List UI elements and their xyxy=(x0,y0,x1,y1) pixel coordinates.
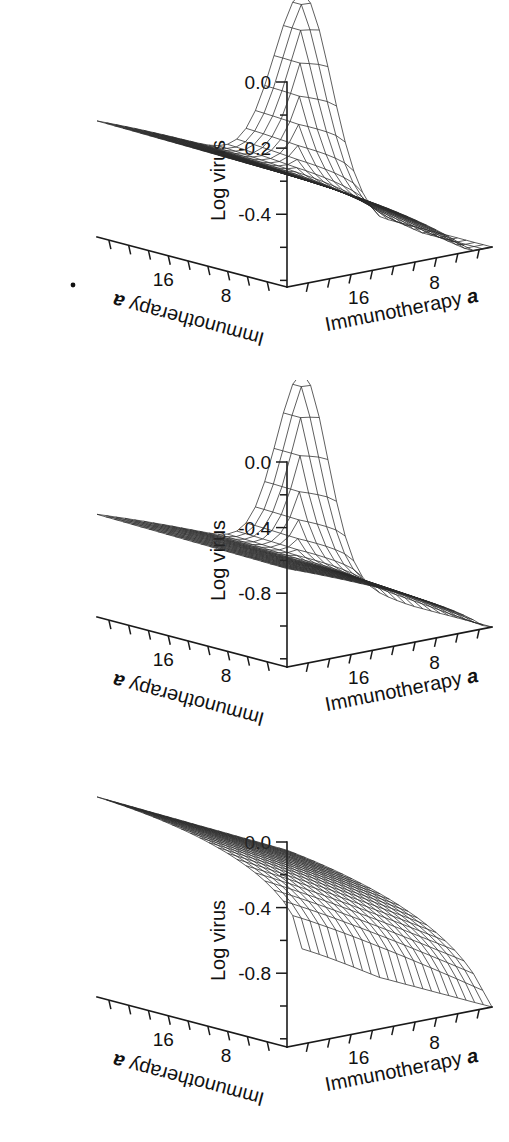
y-tick-label: 8 xyxy=(429,272,440,293)
x-tick-label: 16 xyxy=(153,1029,174,1050)
y-axis-title: Immunotherapy a xyxy=(323,664,480,715)
x-axis-title: Immunotherapy a xyxy=(110,290,266,351)
surface-mesh xyxy=(97,380,492,627)
panel-c-canvas: 0.0-0.4-0.8Log virus816168Immunotherapy … xyxy=(0,760,509,1140)
scan-speck xyxy=(71,283,76,288)
x-tick-label: 8 xyxy=(221,665,232,686)
x-axis-title-italic: a xyxy=(110,1050,126,1074)
figure-surface-plots: 0.0-0.2-0.4Log virus816168Immunotherapy … xyxy=(0,0,509,1142)
z-tick-label: -0.8 xyxy=(238,583,271,604)
plot-panel-b: 0.0-0.4-0.8Log virus816168Immunotherapy … xyxy=(0,380,509,760)
z-tick-label: 0.0 xyxy=(245,452,271,473)
x-axis-title-italic: a xyxy=(110,670,126,694)
y-axis-title-italic: a xyxy=(465,1044,480,1068)
surface-mesh xyxy=(97,797,492,1007)
z-axis-title: Log virus xyxy=(207,900,229,981)
x-tick-label: 8 xyxy=(221,1045,232,1066)
plot-panel-c: 0.0-0.4-0.8Log virus816168Immunotherapy … xyxy=(0,760,509,1140)
x-axis-title: Immunotherapy a xyxy=(110,670,266,731)
z-tick-label: -0.8 xyxy=(238,963,271,984)
axes-group: 0.0-0.2-0.4Log virus816168Immunotherapy … xyxy=(97,72,492,351)
y-tick-label: 8 xyxy=(429,1032,440,1053)
surface-mesh xyxy=(97,0,492,251)
y-axis-title-italic: a xyxy=(465,664,480,688)
y-tick-label: 8 xyxy=(429,652,440,673)
z-tick-label: -0.4 xyxy=(238,898,271,919)
panel-a-canvas: 0.0-0.2-0.4Log virus816168Immunotherapy … xyxy=(0,0,509,380)
x-axis-title: Immunotherapy a xyxy=(110,1050,266,1111)
y-axis-title: Immunotherapy a xyxy=(323,1044,480,1095)
x-tick-label: 16 xyxy=(153,269,174,290)
panel-b-canvas: 0.0-0.4-0.8Log virus816168Immunotherapy … xyxy=(0,380,509,760)
y-axis-title: Immunotherapy a xyxy=(323,284,480,335)
plot-panel-a: 0.0-0.2-0.4Log virus816168Immunotherapy … xyxy=(0,0,509,380)
z-tick-label: 0.0 xyxy=(245,72,271,93)
axes-group: 0.0-0.4-0.8Log virus816168Immunotherapy … xyxy=(97,452,492,731)
z-tick-label: -0.4 xyxy=(238,204,271,225)
x-tick-label: 16 xyxy=(153,649,174,670)
x-tick-label: 8 xyxy=(221,285,232,306)
y-axis-title-italic: a xyxy=(465,284,480,308)
z-axis-title: Log virus xyxy=(207,520,229,601)
x-axis-title-italic: a xyxy=(110,290,126,314)
